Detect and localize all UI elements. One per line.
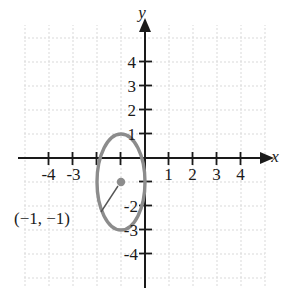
point-annotation-label: (−1, −1) [14,209,70,228]
y-tick-label-minus2: -2 [124,197,138,216]
y-tick-label-minus4: -4 [124,245,139,264]
coordinate-plane: -4 -3 1 2 3 4 4 3 2 1 -2 -3 -4 x y (−1, … [0,0,294,297]
x-tick-label-3: 3 [212,165,221,184]
x-tick-label-minus3: -3 [66,165,80,184]
x-axis-label: x [270,147,279,166]
graph-figure: -4 -3 1 2 3 4 4 3 2 1 -2 -3 -4 x y (−1, … [0,0,294,297]
y-tick-label-minus3: -3 [124,221,138,240]
x-tick-label-minus4: -4 [41,165,56,184]
y-tick-label-2: 2 [128,101,137,120]
annotation-leader-line [101,186,118,212]
axis-lines [18,30,262,288]
y-tick-label-1: 1 [128,125,137,144]
x-tick-label-2: 2 [188,165,197,184]
y-axis-label: y [136,3,146,22]
x-tick-label-4: 4 [236,165,245,184]
center-point-marker [117,178,125,186]
y-tick-label-3: 3 [128,77,137,96]
x-tick-label-1: 1 [164,165,173,184]
y-tick-label-4: 4 [128,53,137,72]
